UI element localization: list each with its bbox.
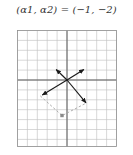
- vector-figure: (α1, α2) = (−1, −2): [0, 0, 133, 155]
- resultant-point-marker: [60, 114, 63, 117]
- vector-plot: [0, 0, 133, 155]
